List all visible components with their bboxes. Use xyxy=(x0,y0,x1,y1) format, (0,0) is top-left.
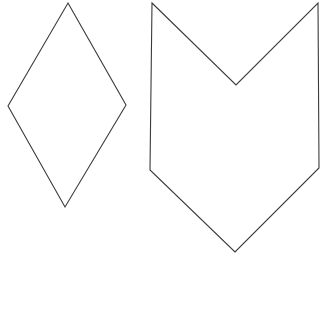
shapes-canvas xyxy=(0,0,325,310)
canvas-background xyxy=(0,0,325,310)
